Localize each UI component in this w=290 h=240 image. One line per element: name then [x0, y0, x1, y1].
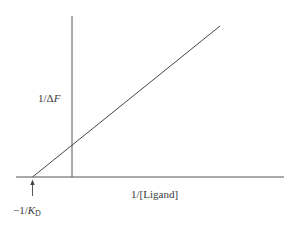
x-axis-label: 1/[Ligand]	[131, 189, 178, 200]
intercept-arrow	[30, 180, 34, 197]
y-axis-label: 1/ΔF	[38, 93, 60, 104]
fit-line	[33, 26, 221, 177]
x-intercept-label: −1/KD	[13, 205, 41, 218]
